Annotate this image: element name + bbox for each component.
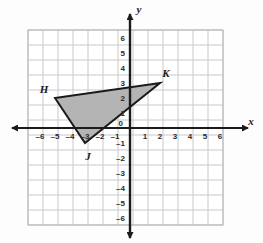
vertex-label-j: J — [84, 150, 91, 162]
vertex-label-k: K — [161, 67, 170, 79]
y-tick-label: 5 — [121, 49, 126, 58]
x-tick-label: 5 — [203, 132, 208, 141]
x-tick-label: –5 — [51, 132, 60, 141]
x-tick-label: 4 — [188, 132, 193, 141]
coordinate-plane-svg: x y 0 –6–5–4–3–2–1123456 654321–1–2–3–4–… — [0, 0, 263, 243]
x-tick-label: 1 — [143, 132, 148, 141]
x-tick-label: –2 — [96, 132, 105, 141]
x-tick-label: –6 — [36, 132, 45, 141]
x-axis-label: x — [247, 115, 254, 127]
y-tick-label: 1 — [121, 109, 126, 118]
y-tick-label: –6 — [116, 214, 125, 223]
x-tick-label: 6 — [218, 132, 223, 141]
origin-label: 0 — [119, 119, 124, 128]
x-tick-label: 2 — [158, 132, 163, 141]
y-tick-label: 4 — [121, 64, 126, 73]
y-tick-label: –4 — [116, 184, 125, 193]
y-tick-label: 6 — [121, 34, 126, 43]
y-axis-label: y — [135, 3, 142, 15]
y-tick-label: –2 — [116, 154, 125, 163]
y-tick-label: –1 — [116, 139, 125, 148]
y-tick-label: 2 — [121, 94, 126, 103]
x-tick-label: –3 — [81, 132, 90, 141]
x-tick-label: 3 — [173, 132, 178, 141]
y-tick-label: –3 — [116, 169, 125, 178]
y-tick-label: –5 — [116, 199, 125, 208]
x-tick-label: –4 — [66, 132, 75, 141]
coordinate-plane-figure: x y 0 –6–5–4–3–2–1123456 654321–1–2–3–4–… — [0, 0, 263, 243]
vertex-label-h: H — [39, 83, 49, 95]
y-tick-label: 3 — [121, 79, 126, 88]
